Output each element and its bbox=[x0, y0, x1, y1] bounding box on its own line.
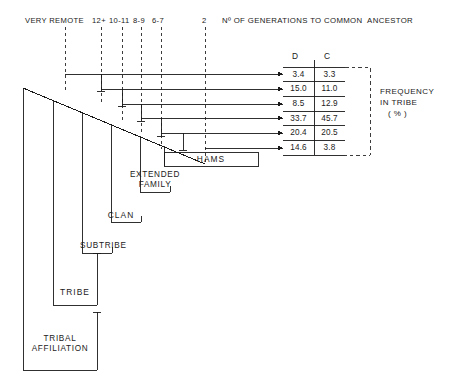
hierarchy-diagonal bbox=[23, 88, 205, 164]
table-cell-d-6: 14.6 bbox=[283, 143, 314, 152]
table-cell-d-2: 15.0 bbox=[283, 84, 314, 93]
tick-label-10-11: 10-11 bbox=[109, 17, 130, 26]
nested-box-walls bbox=[23, 88, 164, 370]
row-connectors bbox=[65, 74, 283, 150]
table-cell-c-5: 20.5 bbox=[314, 128, 345, 137]
table-column-header-c: C bbox=[324, 52, 330, 61]
legend-line-1: FREQUENCY bbox=[380, 86, 434, 98]
table-cell-d-1: 3.4 bbox=[283, 70, 314, 79]
tick-label-very-remote: VERY REMOTE bbox=[25, 17, 84, 26]
table-cell-c-3: 12.9 bbox=[314, 99, 345, 108]
table-cell-c-2: 11.0 bbox=[314, 84, 345, 93]
diagram-canvas: VERY REMOTE 12+ 10-11 8-9 6-7 2 Nº OF GE… bbox=[0, 0, 450, 392]
tick-label-2: 2 bbox=[202, 17, 207, 26]
table-cell-d-3: 8.5 bbox=[283, 99, 314, 108]
table-cell-c-6: 3.8 bbox=[314, 143, 345, 152]
tick-label-6-7: 6-7 bbox=[152, 17, 164, 26]
table-column-header-d: D bbox=[292, 52, 298, 61]
box-label-affiliation-line1: TRIBAL bbox=[23, 334, 97, 343]
tick-label-8-9: 8-9 bbox=[133, 17, 145, 26]
legend-bracket bbox=[345, 67, 370, 155]
box-label-clan: CLAN bbox=[96, 211, 146, 220]
box-label-tribe: TRIBE bbox=[53, 288, 97, 297]
table-cell-d-5: 20.4 bbox=[283, 128, 314, 137]
legend-line-2: IN TRIBE bbox=[380, 97, 417, 109]
table-cell-d-4: 33.7 bbox=[283, 114, 314, 123]
box-label-affiliation-line2: AFFILIATION bbox=[23, 344, 97, 353]
box-label-hams: HAMS bbox=[164, 155, 258, 164]
box-label-extended-family-line2: FAMILY bbox=[120, 180, 190, 189]
table-cell-c-1: 3.3 bbox=[314, 70, 345, 79]
generation-tick-lines bbox=[65, 27, 205, 163]
box-label-subtribe: SUBTRIBE bbox=[80, 241, 114, 250]
legend-line-3: ( % ) bbox=[388, 108, 407, 120]
box-label-extended-family-line1: EXTENDED bbox=[120, 170, 190, 179]
axis-title: Nº OF GENERATIONS TO COMMON ANCESTOR bbox=[222, 17, 413, 26]
table-cell-c-4: 45.7 bbox=[314, 114, 345, 123]
tick-label-12plus: 12+ bbox=[92, 17, 106, 26]
